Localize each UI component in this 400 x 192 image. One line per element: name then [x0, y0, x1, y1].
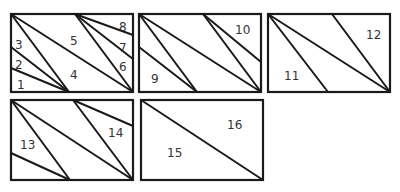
- region-label-7: 7: [119, 41, 127, 55]
- line: [203, 14, 261, 62]
- region-label-4: 4: [70, 68, 78, 82]
- line: [203, 14, 261, 92]
- region-label-10: 10: [235, 23, 250, 37]
- region-label-1: 1: [17, 78, 25, 92]
- region-label-16: 16: [227, 118, 242, 132]
- panel-3: 11 12: [268, 14, 390, 92]
- region-label-14: 14: [108, 126, 123, 140]
- panel-5: 15 16: [141, 100, 263, 180]
- region-label-3: 3: [15, 38, 23, 52]
- region-label-12: 12: [366, 28, 381, 42]
- region-label-2: 2: [15, 58, 23, 72]
- panel-2: 9 10: [139, 14, 261, 92]
- region-label-9: 9: [151, 72, 159, 86]
- diagram-canvas: 1 2 3 4 5 6 7 8 9 10 11 12 13 14: [0, 0, 400, 192]
- panel-4: 13 14: [11, 100, 133, 180]
- region-label-15: 15: [167, 146, 182, 160]
- diagonal-line: [141, 100, 263, 180]
- panel-1: 1 2 3 4 5 6 7 8: [11, 14, 133, 92]
- region-label-13: 13: [20, 138, 35, 152]
- line: [332, 14, 390, 92]
- region-label-8: 8: [119, 20, 127, 34]
- region-label-11: 11: [284, 69, 299, 83]
- region-label-6: 6: [119, 60, 127, 74]
- region-label-5: 5: [70, 34, 78, 48]
